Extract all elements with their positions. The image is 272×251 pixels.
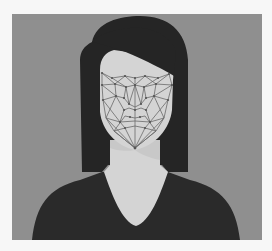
face-recognition-illustration — [0, 0, 272, 251]
